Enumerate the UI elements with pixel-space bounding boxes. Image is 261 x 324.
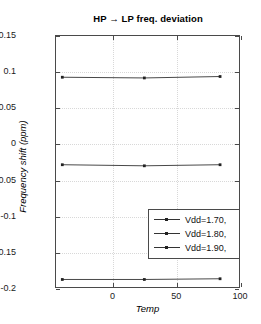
legend-item-label: Vdd=1.90, xyxy=(185,243,226,253)
y-tick-mark xyxy=(235,289,239,290)
chart-figure: HP → LP freq. deviation Vdd=1.70, Vdd=1.… xyxy=(0,0,261,324)
data-point-marker xyxy=(61,278,64,281)
legend-line-sample-icon xyxy=(154,229,180,239)
legend-box[interactable]: Vdd=1.70, Vdd=1.80, Vdd=1.90, xyxy=(148,209,240,259)
legend-line-sample-icon xyxy=(154,243,180,253)
data-point-marker xyxy=(143,278,146,281)
data-point-marker xyxy=(61,163,64,166)
x-tick-mark xyxy=(241,36,242,40)
y-tick-label: 0.1 xyxy=(3,67,16,76)
series-line xyxy=(62,279,220,280)
y-tick-mark xyxy=(56,289,60,290)
legend-item[interactable]: Vdd=1.80, xyxy=(149,227,239,241)
x-tick-label: 0 xyxy=(110,292,115,301)
plot-area: Vdd=1.70, Vdd=1.80, Vdd=1.90, xyxy=(55,35,240,288)
x-tick-mark xyxy=(241,283,242,287)
data-point-marker xyxy=(219,163,222,166)
series-line xyxy=(62,165,220,166)
data-point-marker xyxy=(61,76,64,79)
series-line xyxy=(62,77,220,78)
legend-item[interactable]: Vdd=1.70, xyxy=(149,213,239,227)
data-point-marker xyxy=(219,75,222,78)
x-tick-label: 100 xyxy=(232,292,247,301)
chart-title: HP → LP freq. deviation xyxy=(55,13,241,24)
data-point-marker xyxy=(219,277,222,280)
legend-item[interactable]: Vdd=1.90, xyxy=(149,241,239,255)
y-tick-label: -0.15 xyxy=(0,247,16,256)
x-tick-label: 50 xyxy=(171,292,181,301)
x-axis-label: Temp xyxy=(55,303,240,314)
data-point-marker xyxy=(143,77,146,80)
legend-item-label: Vdd=1.70, xyxy=(185,215,226,225)
legend-item-label: Vdd=1.80, xyxy=(185,229,226,239)
y-axis-label: Frequency shift (ppm) xyxy=(17,92,28,242)
y-tick-label: 0.15 xyxy=(0,31,16,40)
y-tick-label: -0.2 xyxy=(0,284,16,293)
y-tick-label: -0.1 xyxy=(0,211,16,220)
data-point-marker xyxy=(143,164,146,167)
y-tick-label: 0.05 xyxy=(0,103,16,112)
y-tick-label: -0.05 xyxy=(0,175,16,184)
y-tick-label: 0 xyxy=(11,139,16,148)
legend-line-sample-icon xyxy=(154,215,180,225)
